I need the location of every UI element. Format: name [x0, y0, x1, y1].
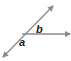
angle-label-a: a [19, 37, 25, 48]
diagonal-line [3, 6, 53, 57]
angle-label-b: b [36, 24, 43, 35]
